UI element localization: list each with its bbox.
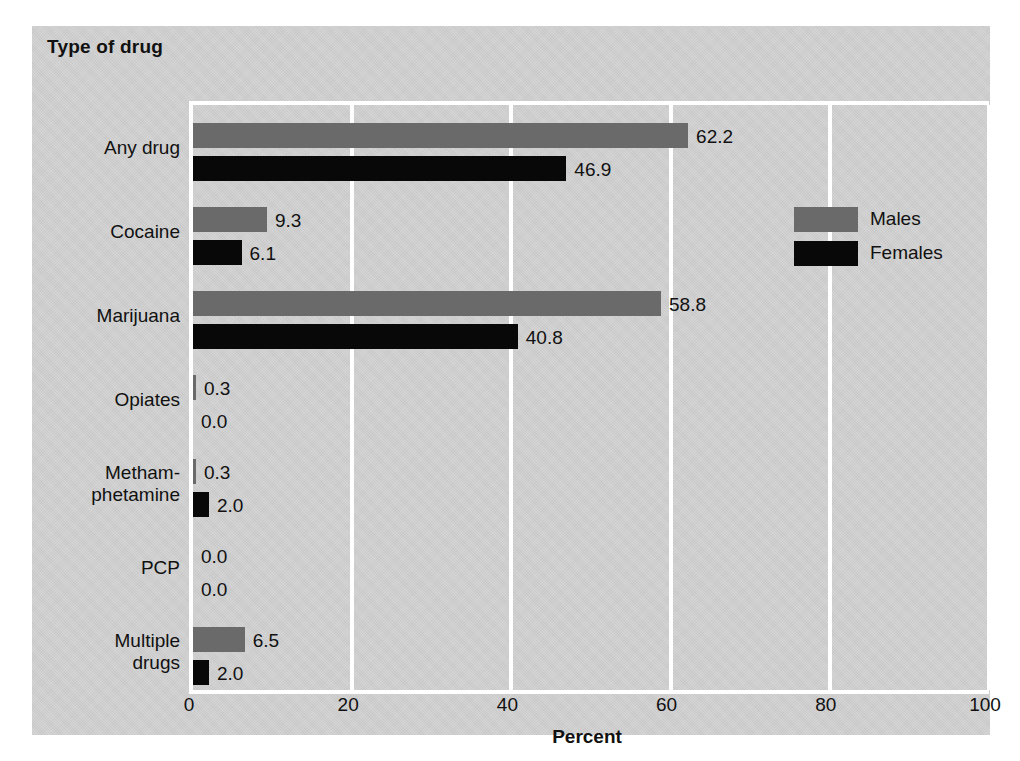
legend-swatch-females xyxy=(794,241,858,266)
bar-value-label-females-2: 40.8 xyxy=(526,328,563,347)
category-label-3: Opiates xyxy=(40,389,180,411)
bar-value-label-females-3: 0.0 xyxy=(201,412,227,431)
bar-value-label-males-3: 0.3 xyxy=(204,379,230,398)
x-axis-title: Percent xyxy=(189,726,985,748)
gridline xyxy=(509,105,513,690)
category-label-0: Any drug xyxy=(40,137,180,159)
legend-label-females: Females xyxy=(870,242,943,264)
bar-females-4 xyxy=(193,492,209,517)
bar-value-label-females-6: 2.0 xyxy=(217,664,243,683)
category-label-line: phetamine xyxy=(40,484,180,506)
category-label-6: Multipledrugs xyxy=(40,630,180,674)
bar-females-2 xyxy=(193,324,518,349)
x-tick-label-3: 60 xyxy=(656,694,677,716)
bar-males-6 xyxy=(193,627,245,652)
category-label-2: Marijuana xyxy=(40,305,180,327)
gridline xyxy=(350,105,354,690)
category-label-line: Multiple xyxy=(40,630,180,652)
bar-value-label-females-5: 0.0 xyxy=(201,580,227,599)
bar-value-label-males-5: 0.0 xyxy=(201,547,227,566)
bar-males-4 xyxy=(193,459,196,484)
legend-item-males[interactable]: Males xyxy=(794,202,943,236)
category-label-line: Any drug xyxy=(40,137,180,159)
bar-males-2 xyxy=(193,291,661,316)
bar-males-0 xyxy=(193,123,688,148)
legend-item-females[interactable]: Females xyxy=(794,236,943,270)
bar-females-0 xyxy=(193,156,566,181)
category-label-line: Opiates xyxy=(40,389,180,411)
bar-value-label-males-0: 62.2 xyxy=(696,127,733,146)
bar-females-6 xyxy=(193,660,209,685)
bar-females-1 xyxy=(193,240,242,265)
gridline xyxy=(987,105,991,690)
gridline xyxy=(669,105,673,690)
bar-value-label-females-1: 6.1 xyxy=(250,244,276,263)
bar-value-label-females-0: 46.9 xyxy=(574,160,611,179)
bar-value-label-males-4: 0.3 xyxy=(204,463,230,482)
x-tick-label-4: 80 xyxy=(815,694,836,716)
category-label-5: PCP xyxy=(40,557,180,579)
bar-males-1 xyxy=(193,207,267,232)
category-label-line: Metham- xyxy=(40,462,180,484)
category-label-line: Marijuana xyxy=(40,305,180,327)
bar-value-label-males-6: 6.5 xyxy=(253,631,279,650)
legend-swatch-males xyxy=(794,207,858,232)
bar-value-label-females-4: 2.0 xyxy=(217,496,243,515)
x-tick-label-1: 20 xyxy=(338,694,359,716)
plot-area: 62.246.99.36.158.840.80.30.00.32.00.00.0… xyxy=(189,101,989,694)
x-tick-label-2: 40 xyxy=(497,694,518,716)
category-label-line: drugs xyxy=(40,652,180,674)
category-axis-labels: Any drugCocaineMarijuanaOpiatesMetham-ph… xyxy=(32,26,180,735)
x-tick-label-5: 100 xyxy=(969,694,1001,716)
legend: MalesFemales xyxy=(794,202,943,270)
category-label-4: Metham-phetamine xyxy=(40,462,180,506)
legend-label-males: Males xyxy=(870,208,921,230)
x-tick-label-0: 0 xyxy=(184,694,195,716)
gridline xyxy=(828,105,832,690)
bar-value-label-males-2: 58.8 xyxy=(669,295,706,314)
bar-value-label-males-1: 9.3 xyxy=(275,211,301,230)
category-label-line: Cocaine xyxy=(40,221,180,243)
chart-panel: Type of drug Any drugCocaineMarijuanaOpi… xyxy=(32,26,990,735)
category-label-line: PCP xyxy=(40,557,180,579)
bar-males-3 xyxy=(193,375,196,400)
category-label-1: Cocaine xyxy=(40,221,180,243)
